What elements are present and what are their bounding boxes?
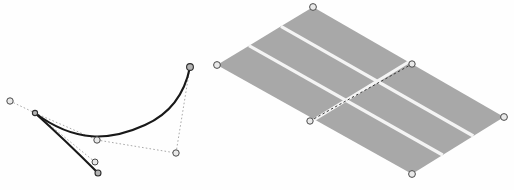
bezier-curve-editor[interactable] xyxy=(7,64,194,176)
mesh-handle-right[interactable] xyxy=(501,114,508,121)
tangent-lower-mid[interactable] xyxy=(97,140,176,153)
mesh-handle-left[interactable] xyxy=(214,62,221,69)
control-bottom-upper[interactable] xyxy=(92,159,98,165)
control-mid-lower[interactable] xyxy=(94,137,100,143)
control-right-lower[interactable] xyxy=(173,150,179,156)
bezier-curve-path[interactable] xyxy=(35,67,190,173)
anchor-bottom-end[interactable] xyxy=(95,170,101,176)
mesh-handle-top[interactable] xyxy=(310,4,317,11)
mesh-grid-patch[interactable] xyxy=(214,4,508,178)
anchor-top-right[interactable] xyxy=(187,64,194,71)
mesh-handle-bottom[interactable] xyxy=(409,171,416,178)
bezier-control-points[interactable] xyxy=(7,64,194,176)
illustration-svg xyxy=(0,0,514,190)
illustration-canvas xyxy=(0,0,514,190)
tangent-left-outer[interactable] xyxy=(10,101,35,113)
anchor-left-outer[interactable] xyxy=(7,98,13,104)
lower-segment[interactable] xyxy=(35,113,98,173)
mesh-handle-diagonal-start[interactable] xyxy=(307,118,313,124)
tangent-right[interactable] xyxy=(176,67,190,153)
upper-segment[interactable] xyxy=(35,67,190,136)
anchor-cusp[interactable] xyxy=(32,110,37,115)
mesh-handle-diagonal-end[interactable] xyxy=(409,61,415,67)
